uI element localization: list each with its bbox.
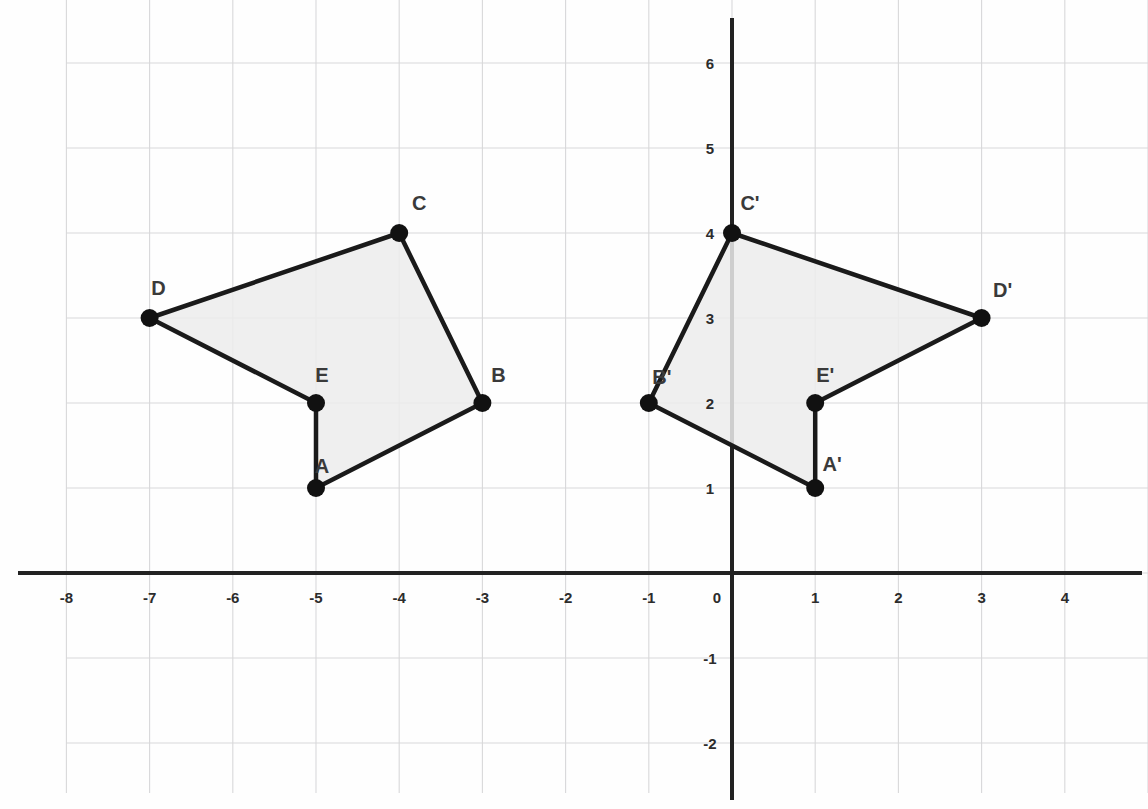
vertex-point [307,479,325,497]
vertex-point [307,394,325,412]
x-tick-label: -5 [309,589,322,606]
vertex-point [640,394,658,412]
vertex-point [806,479,824,497]
vertex-label: E [315,364,328,387]
vertex-point [973,309,991,327]
vertex-label: D' [993,279,1012,302]
x-tick-label: -6 [226,589,239,606]
axes [18,18,1142,800]
vertex-label: C' [740,192,759,215]
y-tick-label: -1 [703,650,716,667]
y-tick-label: 2 [706,395,714,412]
x-tick-label: 0 [713,589,721,606]
x-tick-label: 2 [894,589,902,606]
y-tick-label: -2 [703,735,716,752]
vertex-label: B' [652,366,671,389]
x-tick-label: 3 [977,589,985,606]
x-tick-label: -1 [642,589,655,606]
vertex-label: B [491,364,505,387]
y-tick-label: 5 [706,140,714,157]
coordinate-plane-svg [0,0,1148,809]
vertex-label: D [151,277,165,300]
x-tick-label: -2 [559,589,572,606]
vertex-label: A [315,455,329,478]
x-tick-label: 4 [1061,589,1069,606]
x-tick-label: -4 [393,589,406,606]
x-tick-label: 1 [811,589,819,606]
vertex-label: A' [823,453,842,476]
y-tick-label: 6 [706,55,714,72]
vertex-point [390,224,408,242]
x-tick-label: -7 [143,589,156,606]
vertex-label: C [412,192,426,215]
y-tick-label: 4 [706,225,714,242]
vertex-point [806,394,824,412]
vertex-point [141,309,159,327]
vertex-point [723,224,741,242]
y-tick-label: 3 [706,310,714,327]
vertex-label: E' [816,364,834,387]
y-tick-label: 1 [706,480,714,497]
vertex-point [473,394,491,412]
x-tick-label: -3 [476,589,489,606]
x-tick-label: -8 [60,589,73,606]
grid-lines [66,0,1148,793]
coordinate-plane-figure: -8-7-6-5-4-3-2-101234654321-1-2 ABCDEA'B… [0,0,1148,809]
